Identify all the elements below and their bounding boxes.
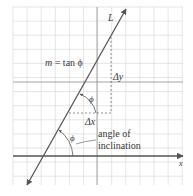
angle-of-inclination-line1: angle of xyxy=(98,128,131,139)
delta-x-label: Δx xyxy=(84,116,96,127)
grid-background xyxy=(13,7,183,185)
delta-y-label: Δy xyxy=(112,71,124,82)
upper-phi-label: ϕ xyxy=(89,94,94,104)
angle-leader-line xyxy=(76,140,96,144)
lower-phi-label: ϕ xyxy=(70,133,75,143)
line-L-label: L xyxy=(107,12,114,23)
angle-of-inclination-line2: inclination xyxy=(98,140,141,151)
x-axis-label: x xyxy=(178,159,183,168)
slope-rest: = tan ϕ xyxy=(52,57,83,68)
slope-formula-label: m = tan ϕ xyxy=(45,57,83,68)
slope-angle-diagram: x L m = tan ϕ Δy Δx ϕ ϕ angle of inclina… xyxy=(0,0,193,196)
slope-m: m xyxy=(45,57,52,68)
